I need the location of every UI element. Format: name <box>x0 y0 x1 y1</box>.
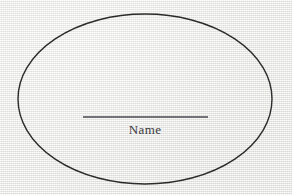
name-field-caption: Name <box>129 122 162 137</box>
ellipse-outline-icon <box>18 14 272 184</box>
scanned-page-canvas: Name <box>0 0 292 195</box>
ellipse-name-diagram: Name <box>0 0 292 195</box>
